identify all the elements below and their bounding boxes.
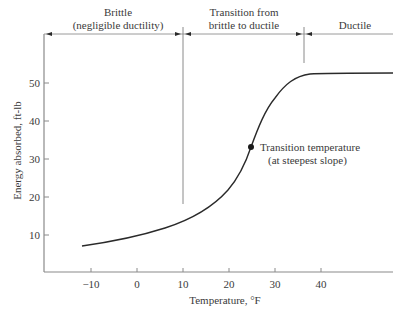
region-label-brittle-line1: Brittle: [63, 6, 173, 19]
annotation-line2: (at steepest slope): [258, 154, 378, 167]
x-tick-label: −10: [78, 278, 104, 290]
x-tick-label: 30: [265, 278, 285, 290]
y-tick-label: 40: [24, 115, 40, 127]
region-label-transition-line2: brittle to ductile: [188, 19, 300, 32]
region-label-transition: Transition from brittle to ductile: [188, 6, 300, 32]
x-tick-label: 40: [311, 278, 331, 290]
annotation-line1: Transition temperature: [258, 141, 378, 154]
region-label-brittle-line2: (negligible ductility): [63, 19, 173, 32]
y-axis-title: Energy absorbed, ft-lb: [11, 86, 24, 216]
y-tick-label: 30: [24, 153, 40, 165]
transition-temperature-marker: [248, 144, 254, 150]
y-ticks: [44, 83, 49, 235]
y-tick-label: 20: [24, 191, 40, 203]
region-label-transition-line1: Transition from: [188, 6, 300, 19]
x-tick-label: 10: [173, 278, 193, 290]
y-tick-label: 50: [24, 77, 40, 89]
region-label-ductile: Ductile: [320, 19, 390, 32]
x-axis-title: Temperature, °F: [160, 294, 290, 307]
region-label-ductile-line1: Ductile: [320, 19, 390, 32]
x-tick-label: 20: [219, 278, 239, 290]
region-label-brittle: Brittle (negligible ductility): [63, 6, 173, 32]
transition-annotation: Transition temperature (at steepest slop…: [258, 141, 378, 167]
x-tick-label: 0: [127, 278, 147, 290]
y-tick-label: 10: [24, 229, 40, 241]
